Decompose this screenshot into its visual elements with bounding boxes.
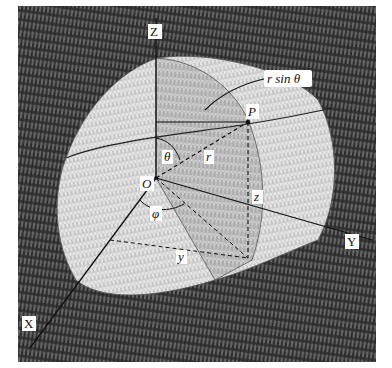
label-r-sin-theta: r sin θ	[264, 70, 312, 87]
svg-text:X: X	[24, 316, 34, 331]
label-origin: O	[140, 176, 154, 191]
svg-text:y: y	[176, 249, 184, 264]
point-p	[246, 120, 250, 124]
svg-text:z: z	[253, 189, 259, 204]
svg-text:r sin θ: r sin θ	[267, 71, 301, 86]
svg-text:Y: Y	[347, 234, 357, 249]
origin-point	[154, 176, 158, 180]
label-radius: r	[204, 149, 214, 164]
spherical-coordinates-diagram: Z Y X O P r θ φ z y r sin θ	[0, 0, 392, 368]
label-point-p: P	[246, 104, 259, 119]
svg-text:O: O	[142, 176, 152, 191]
label-z-height: z	[252, 189, 263, 204]
label-x-axis: X	[22, 316, 36, 331]
svg-text:θ: θ	[164, 149, 171, 164]
label-z-axis: Z	[148, 24, 162, 39]
label-y-coordinate: y	[176, 249, 187, 264]
svg-text:P: P	[247, 104, 256, 119]
svg-text:φ: φ	[152, 206, 159, 221]
label-y-axis: Y	[345, 234, 359, 249]
label-phi: φ	[150, 206, 162, 221]
svg-text:Z: Z	[150, 24, 158, 39]
label-theta: θ	[162, 149, 173, 164]
